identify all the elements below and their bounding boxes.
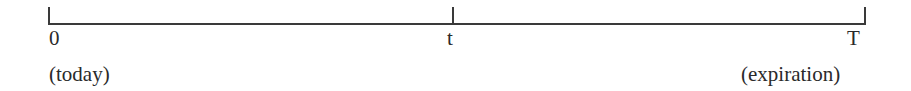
label-middle: t: [447, 28, 453, 49]
sublabel-end: (expiration): [741, 64, 840, 85]
label-end: T: [847, 28, 860, 49]
tick-middle: [452, 7, 454, 24]
timeline-axis: [48, 23, 866, 25]
label-start: 0: [49, 28, 60, 49]
sublabel-start: (today): [49, 64, 110, 85]
tick-start: [48, 7, 50, 24]
tick-end: [864, 7, 866, 24]
